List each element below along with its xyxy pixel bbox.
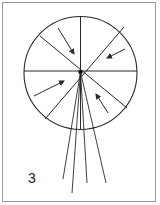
wheel-spoke xyxy=(40,36,127,108)
panel-number-label: 3 xyxy=(28,171,36,185)
wheel-spoke xyxy=(45,27,124,119)
arrow-lower-right-sector-icon xyxy=(96,94,108,113)
arrow-upper-left-sector-icon xyxy=(58,28,74,54)
wheel-diagram xyxy=(0,0,160,205)
arrow-upper-right-sector-icon xyxy=(107,49,125,58)
converging-ray xyxy=(72,72,81,193)
converging-ray xyxy=(81,72,88,183)
converging-ray xyxy=(81,72,107,183)
arrow-lower-left-sector-icon xyxy=(34,81,64,96)
wheel-hub xyxy=(78,70,82,74)
